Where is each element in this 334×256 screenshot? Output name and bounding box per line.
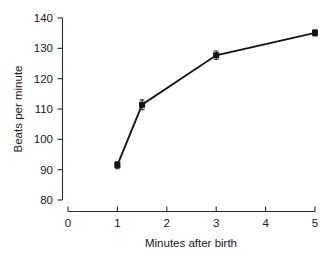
x-axis-ticks: [68, 207, 315, 212]
y-tick-label-140: 140: [34, 12, 53, 24]
y-axis-title: Beats per minute: [12, 66, 24, 153]
y-tick-label-110: 110: [35, 103, 53, 115]
x-tick-label-0: 0: [65, 217, 71, 229]
data-point-3: [312, 30, 317, 35]
y-tick-label-120: 120: [34, 73, 53, 85]
x-tick-label-5: 5: [312, 217, 318, 229]
x-tick-label-2: 2: [164, 217, 170, 229]
data-series-heart-rate: [115, 30, 318, 169]
x-tick-label-1: 1: [114, 217, 120, 229]
x-tick-label-3: 3: [213, 217, 219, 229]
data-point-1: [140, 102, 145, 107]
x-axis-title: Minutes after birth: [145, 237, 237, 249]
y-axis-ticks: [58, 18, 63, 200]
y-tick-label-80: 80: [40, 194, 53, 206]
data-point-0: [115, 163, 120, 168]
data-point-2: [214, 53, 219, 58]
y-tick-label-100: 100: [34, 133, 53, 145]
chart-figure: 140 130 120 110 100 90 80 0 1 2 3 4 5 Mi…: [0, 0, 334, 256]
y-tick-label-90: 90: [40, 164, 53, 176]
x-tick-label-4: 4: [262, 217, 269, 229]
y-tick-label-130: 130: [34, 42, 53, 54]
line-chart: 140 130 120 110 100 90 80 0 1 2 3 4 5 Mi…: [0, 0, 334, 256]
